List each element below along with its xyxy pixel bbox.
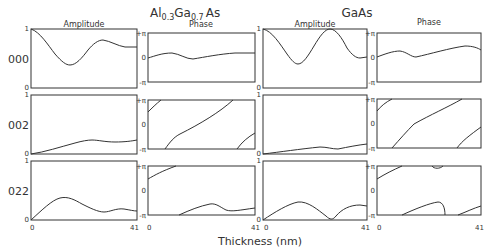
panel-gaas-002-amp [263,95,367,154]
title-gaas: GaAs [341,6,372,20]
panel-al-002-phase [148,100,255,149]
curve-gaas-002-phase-a [377,99,392,111]
col-title-amplitude-2: Amplitude [295,20,336,29]
tick-gaas-022-1: 1 [257,157,261,165]
panel-al-002-amp [31,95,137,154]
xtick-al-phase-0: 0 [147,224,151,232]
tick-al-022-pi: +π [136,163,147,171]
tick-gaas-022-pi: +π [365,163,376,171]
panel-gaas-022-amp [263,161,367,220]
tick-al-002-zero: 0 [142,121,146,129]
tick-al-022-0: 0 [25,216,29,224]
xtick-gaas-amp-41: 41 [361,224,370,232]
curve-gaas-022-phase-c [402,202,445,215]
tick-al-000-zero: 0 [142,54,146,62]
tick-al-022-mpi: -π [139,212,147,220]
curve-al-022-amp [31,197,137,220]
xtick-gaas-phase-41: 41 [475,224,484,232]
curve-gaas-002-phase-b [392,99,462,148]
col-title-amplitude-1: Amplitude [64,20,105,29]
tick-al-022-1: 1 [25,157,29,165]
col-title-phase-2: Phase [417,18,441,27]
panel-al-022-phase [148,166,255,215]
xtick-al-amp-41: 41 [130,224,139,232]
panel-gaas-002-phase [377,99,481,148]
tick-gaas-022-mpi: -π [368,212,376,220]
tick-gaas-002-zero: 0 [371,120,375,128]
curve-gaas-022-phase-d [458,206,481,215]
curve-al-002-amp [31,140,137,154]
panel-gaas-000-phase [377,33,481,82]
curve-gaas-022-amp [263,202,367,220]
tick-gaas-000-pi: +π [365,30,376,38]
tick-gaas-000-1: 1 [257,25,261,33]
curve-al-002-phase-c [237,133,255,149]
curve-al-000-phase [148,53,255,59]
tick-gaas-002-pi: +π [365,96,376,104]
tick-al-000-1: 1 [25,25,29,33]
panel-al-000-amp [31,29,137,88]
xtick-al-phase-41: 41 [251,224,260,232]
col-title-phase-1: Phase [189,20,213,29]
xtick-al-amp-0: 0 [30,224,34,232]
figure-canvas: Al0.3Ga0.7As GaAs Amplitude Phase Amplit… [0,0,489,250]
tick-al-002-mpi: -π [139,146,147,154]
panel-gaas-000-amp [263,29,367,88]
tick-gaas-000-mpi: -π [368,79,376,87]
curve-al-002-phase-a [148,100,161,112]
tick-al-002-1: 1 [25,91,29,99]
tick-gaas-002-mpi: -π [368,145,376,153]
curve-al-022-phase-a [148,166,176,179]
curve-al-000-amp [31,29,137,65]
tick-gaas-022-0: 0 [257,216,261,224]
panel-gaas-022-phase [377,166,481,215]
row-label-000: 000 [8,53,29,66]
panel-al-022-amp [31,161,137,220]
curve-gaas-000-phase [377,46,481,57]
tick-al-002-pi: +π [136,97,147,105]
curve-al-002-phase-b [165,100,233,149]
curve-al-022-phase-b [179,204,255,215]
row-label-022: 022 [8,185,29,198]
curve-gaas-002-amp [263,144,367,154]
tick-gaas-002-1: 1 [257,91,261,99]
curve-gaas-000-amp [263,29,367,64]
tick-al-000-mpi: -π [139,79,147,87]
xtick-gaas-amp-0: 0 [264,224,268,232]
row-label-002: 002 [8,119,29,132]
xtick-gaas-phase-0: 0 [377,224,381,232]
tick-al-022-zero: 0 [142,187,146,195]
tick-gaas-000-zero: 0 [371,54,375,62]
tick-gaas-022-zero: 0 [371,187,375,195]
curve-gaas-002-phase-c [457,127,481,148]
x-axis-label: Thickness (nm) [217,235,302,248]
tick-al-000-pi: +π [136,30,147,38]
curve-gaas-022-phase-a [377,166,402,179]
